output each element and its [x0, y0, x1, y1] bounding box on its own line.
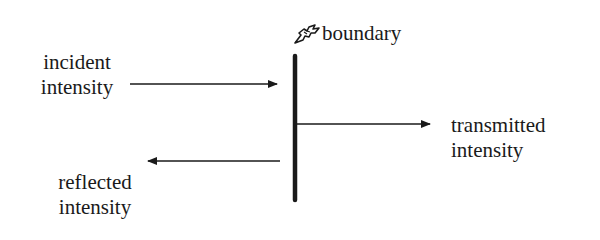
- transmitted-line1: transmitted: [451, 113, 545, 138]
- boundary-label: boundary: [322, 21, 401, 46]
- transmitted-intensity-label: transmitted intensity: [451, 113, 545, 163]
- reflected-intensity-label: reflected intensity: [47, 170, 143, 220]
- incident-intensity-label: incident intensity: [30, 50, 124, 100]
- incident-line1: incident: [30, 50, 124, 75]
- reflected-line2: intensity: [47, 195, 143, 220]
- transmitted-line2: intensity: [451, 138, 545, 163]
- reflected-line1: reflected: [47, 170, 143, 195]
- pointing-hand-icon: [293, 22, 321, 46]
- incident-line2: intensity: [30, 75, 124, 100]
